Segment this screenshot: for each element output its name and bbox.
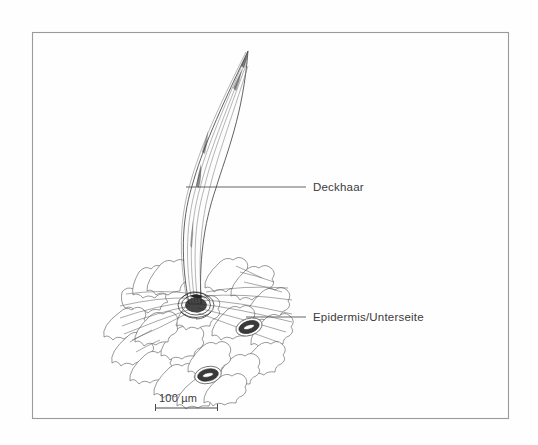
scale-bar-label: 100 µm	[159, 392, 197, 404]
label-deckhaar: Deckhaar	[313, 181, 364, 193]
figure-root: Deckhaar Epidermis/Unterseite 100 µm	[0, 0, 538, 445]
figure-background	[0, 0, 538, 445]
label-epidermis-unterseite: Epidermis/Unterseite	[313, 311, 424, 323]
botanical-illustration: Deckhaar Epidermis/Unterseite 100 µm	[0, 0, 538, 445]
